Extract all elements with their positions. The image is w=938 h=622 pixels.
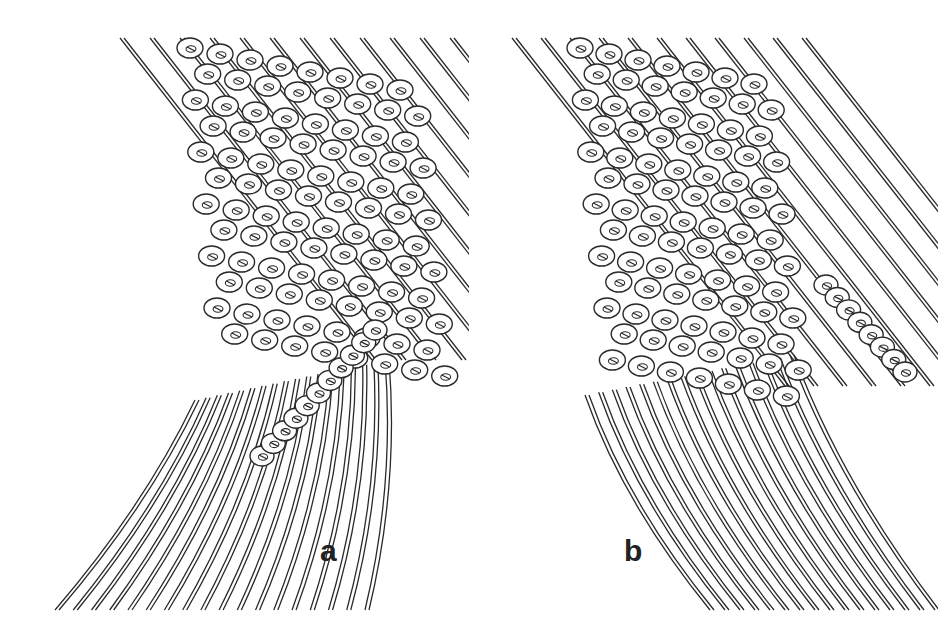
bead — [635, 278, 661, 298]
bead — [601, 96, 627, 116]
bead — [312, 342, 338, 362]
bead — [594, 298, 620, 318]
bead — [315, 88, 341, 108]
panel-b-illustration — [469, 0, 938, 622]
bead — [611, 324, 637, 344]
bead — [272, 108, 298, 128]
bead — [612, 200, 638, 220]
bead — [578, 142, 604, 162]
bead — [366, 302, 392, 322]
bead — [264, 310, 290, 330]
bead — [248, 154, 274, 174]
bead — [324, 322, 350, 342]
bead — [636, 154, 662, 174]
bead — [683, 62, 709, 82]
bead — [234, 304, 260, 324]
bead — [700, 88, 726, 108]
bead — [652, 310, 678, 330]
bead — [751, 302, 777, 322]
bead — [688, 114, 714, 134]
bead — [677, 134, 703, 154]
bead — [338, 172, 364, 192]
bead — [319, 270, 345, 290]
bead — [657, 362, 683, 382]
bead — [294, 316, 320, 336]
bead — [188, 142, 214, 162]
bead — [774, 256, 800, 276]
bead — [599, 350, 625, 370]
bead — [735, 146, 761, 166]
bead — [326, 192, 352, 212]
panel-b-label: b — [624, 536, 642, 566]
bead — [699, 218, 725, 238]
bead — [618, 252, 644, 272]
bead — [687, 238, 713, 258]
bead — [567, 38, 593, 58]
bead — [741, 74, 767, 94]
bead — [336, 296, 362, 316]
bead — [212, 96, 238, 116]
bead — [624, 174, 650, 194]
bead — [260, 128, 286, 148]
bead — [177, 38, 203, 58]
bead — [387, 80, 413, 100]
bead — [715, 374, 741, 394]
bead — [350, 146, 376, 166]
bead — [182, 90, 208, 110]
bead — [320, 140, 346, 160]
bead — [641, 206, 667, 226]
bead — [769, 204, 795, 224]
bead — [396, 308, 422, 328]
bead — [229, 252, 255, 272]
bead — [301, 238, 327, 258]
bead — [200, 116, 226, 136]
bead — [694, 166, 720, 186]
bead — [752, 178, 778, 198]
bead — [302, 114, 328, 134]
bead — [276, 284, 302, 304]
bead — [583, 194, 609, 214]
bead — [669, 336, 695, 356]
bead — [640, 330, 666, 350]
bead — [416, 210, 442, 230]
bead — [345, 94, 371, 114]
bead — [745, 250, 771, 270]
bead — [282, 336, 308, 356]
bead — [746, 126, 772, 146]
bead — [628, 356, 654, 376]
bead — [357, 74, 383, 94]
bead — [670, 212, 696, 232]
bead — [414, 340, 440, 360]
bead — [764, 152, 790, 172]
bead — [405, 106, 431, 126]
bead — [372, 354, 398, 374]
bead — [267, 56, 293, 76]
bead — [717, 120, 743, 140]
bead — [584, 64, 610, 84]
bead — [379, 282, 405, 302]
bead — [296, 186, 322, 206]
bead — [199, 246, 225, 266]
bead — [403, 236, 429, 256]
bead — [780, 308, 806, 328]
bead — [589, 246, 615, 266]
bead — [193, 194, 219, 214]
bead — [698, 342, 724, 362]
bead — [664, 284, 690, 304]
bead — [671, 82, 697, 102]
bead — [207, 44, 233, 64]
bead — [246, 278, 272, 298]
bead — [252, 330, 278, 350]
bead — [658, 232, 684, 252]
bead — [283, 212, 309, 232]
bead — [343, 224, 369, 244]
bead — [308, 166, 334, 186]
bead — [410, 158, 436, 178]
bead — [384, 334, 410, 354]
bead — [204, 298, 230, 318]
bead — [216, 272, 242, 292]
panel-a-label: a — [320, 536, 337, 566]
bead — [237, 50, 263, 70]
bead — [432, 366, 458, 386]
bead — [659, 108, 685, 128]
